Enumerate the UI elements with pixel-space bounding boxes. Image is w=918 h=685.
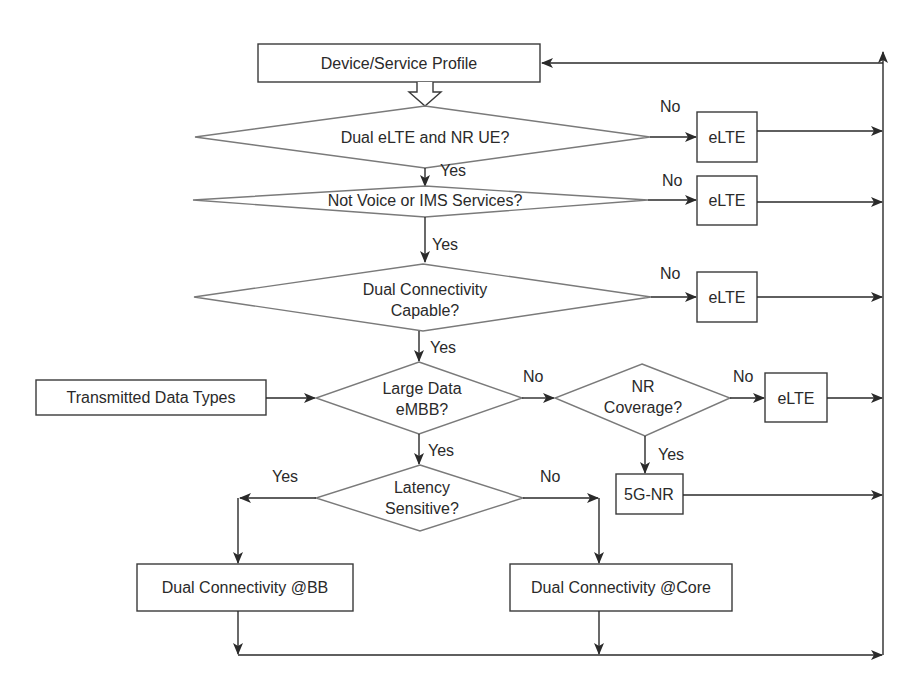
edge-label-yes: Yes — [658, 446, 684, 463]
node-elte-1: eLTE — [697, 112, 757, 162]
node-dual-connectivity-bb: Dual Connectivity @BB — [137, 564, 353, 611]
node-transmitted-data-types: Transmitted Data Types — [36, 380, 266, 415]
edge-label-no: No — [523, 368, 544, 385]
decision-label-line2: eMBB? — [396, 401, 449, 418]
node-elte-2: eLTE — [697, 176, 757, 225]
node-label: Device/Service Profile — [321, 55, 478, 72]
node-label: Dual Connectivity @Core — [531, 579, 711, 596]
decision-nr-coverage: NR Coverage? — [555, 364, 730, 436]
decision-not-voice-ims: Not Voice or IMS Services? — [193, 186, 648, 217]
decision-dc-capable: Dual Connectivity Capable? — [194, 264, 651, 331]
node-elte-3: eLTE — [697, 272, 757, 322]
decision-label-line1: Large Data — [382, 380, 461, 397]
edge-label-no: No — [540, 468, 561, 485]
decision-label-line1: NR — [631, 378, 654, 395]
decision-label-line2: Sensitive? — [385, 500, 459, 517]
edge-label-no: No — [660, 265, 681, 282]
node-label: Dual Connectivity @BB — [162, 579, 329, 596]
node-label: eLTE — [777, 390, 814, 407]
node-label: 5G-NR — [624, 486, 674, 503]
decision-large-data-embb: Large Data eMBB? — [316, 362, 522, 434]
flowchart: Device/Service Profile Dual eLTE and NR … — [0, 0, 918, 685]
node-dual-connectivity-core: Dual Connectivity @Core — [510, 564, 732, 611]
decision-label-line1: Dual Connectivity — [363, 281, 488, 298]
hollow-down-arrow-icon — [409, 82, 441, 106]
edge-label-yes: Yes — [272, 468, 298, 485]
decision-label-line2: Capable? — [391, 302, 460, 319]
edge-label-no: No — [733, 368, 754, 385]
node-label: eLTE — [708, 192, 745, 209]
node-device-service-profile: Device/Service Profile — [258, 44, 540, 82]
node-label: eLTE — [708, 289, 745, 306]
node-label: Transmitted Data Types — [67, 389, 236, 406]
edge-label-yes: Yes — [428, 442, 454, 459]
node-5g-nr: 5G-NR — [616, 474, 683, 514]
node-elte-4: eLTE — [765, 373, 827, 422]
edge-label-yes: Yes — [440, 162, 466, 179]
decision-dual-elte-nr-ue: Dual eLTE and NR UE? — [195, 106, 650, 168]
decision-label: Dual eLTE and NR UE? — [341, 129, 510, 146]
decision-label: Not Voice or IMS Services? — [328, 192, 523, 209]
decision-label-line1: Latency — [394, 479, 450, 496]
edge-label-no: No — [662, 172, 683, 189]
node-label: eLTE — [708, 129, 745, 146]
decision-latency-sensitive: Latency Sensitive? — [316, 465, 523, 531]
decision-label-line2: Coverage? — [604, 399, 682, 416]
edge-label-yes: Yes — [430, 339, 456, 356]
edge-label-yes: Yes — [432, 236, 458, 253]
edge-label-no: No — [660, 98, 681, 115]
